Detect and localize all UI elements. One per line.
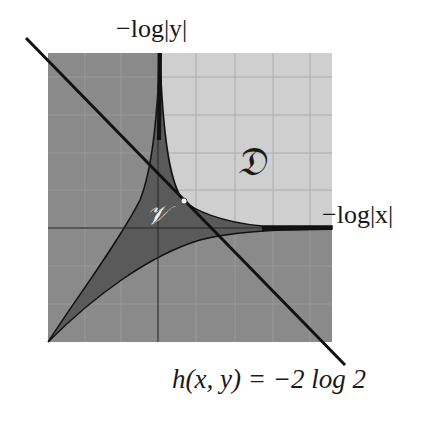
y-axis-label: −log|y| xyxy=(116,14,187,44)
marked-point xyxy=(181,198,187,204)
x-axis-label: −log|x| xyxy=(322,200,393,230)
level-line-label: h(x, y) = −2 log 2 xyxy=(172,364,366,395)
region-D-label: 𝔇 xyxy=(236,138,266,185)
region-V-label: 𝒱 xyxy=(146,200,168,231)
